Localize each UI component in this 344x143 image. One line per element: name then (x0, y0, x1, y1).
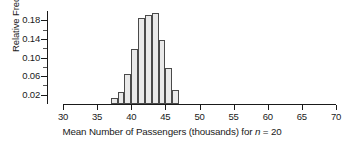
x-axis-tick-mark (131, 105, 132, 110)
x-axis-tick-mark (268, 105, 269, 110)
y-axis-tick-label: 0.18 (10, 15, 40, 24)
y-axis-tick-label: 0.06 (10, 71, 40, 80)
histogram-bar (145, 15, 152, 104)
x-axis-tick-mark (200, 105, 201, 110)
histogram-bar (138, 18, 145, 104)
histogram-bar (131, 49, 138, 104)
x-axis-tick-label: 70 (324, 111, 344, 122)
histogram-bar (124, 74, 131, 104)
y-axis-tick-labels: 0.020.060.100.140.18 (8, 0, 40, 143)
histogram-bar (172, 90, 179, 104)
x-axis-title-text-before: Mean Number of Passengers (thousands) fo… (62, 126, 254, 137)
x-axis-tick-label: 35 (85, 111, 109, 122)
histogram-bar (152, 13, 159, 104)
y-axis-tick-label: 0.10 (10, 53, 40, 62)
x-axis-tick-label: 55 (222, 111, 246, 122)
x-axis-title: Mean Number of Passengers (thousands) fo… (0, 126, 344, 137)
x-axis-title-text-after: = 20 (260, 126, 281, 137)
x-axis-tick-mark (63, 105, 64, 110)
x-axis-tick-mark (336, 105, 337, 110)
histogram-figure: Relative Frequency 0.020.060.100.140.18 … (0, 0, 344, 143)
histogram-bar (165, 68, 172, 104)
x-axis-tick-label: 40 (119, 111, 143, 122)
x-axis-tick-mark (97, 105, 98, 110)
y-axis-tick-label: 0.14 (10, 34, 40, 43)
x-axis-tick-label: 30 (51, 111, 75, 122)
x-axis-tick-mark (302, 105, 303, 110)
x-axis-tick-label: 50 (188, 111, 212, 122)
x-axis-tick-label: 65 (290, 111, 314, 122)
histogram-bar (159, 40, 166, 104)
x-axis-tick-label: 45 (153, 111, 177, 122)
y-axis-tick-label: 0.02 (10, 90, 40, 99)
x-axis-tick-mark (234, 105, 235, 110)
y-axis-line (47, 11, 48, 104)
histogram-bar (111, 98, 118, 104)
histogram-bars (63, 11, 336, 104)
x-axis-tick-mark (165, 105, 166, 110)
x-axis-tick-label: 60 (256, 111, 280, 122)
histogram-bar (118, 92, 125, 104)
